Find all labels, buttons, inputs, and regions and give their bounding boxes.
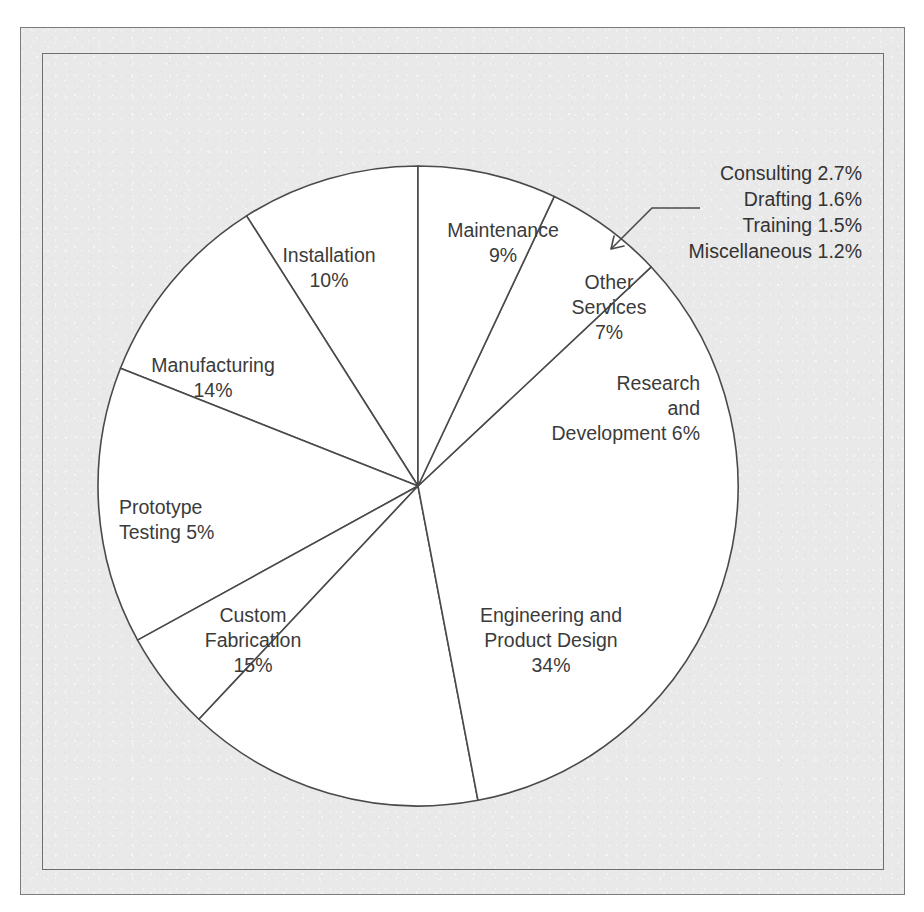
pie-chart-svg: Maintenance9%Installation10%Manufacturin… xyxy=(0,0,924,912)
pie-slice-label-line: Prototype xyxy=(119,496,202,518)
pie-slice-label-line: 34% xyxy=(531,654,570,676)
pie-slice-label-line: 10% xyxy=(309,269,348,291)
pie-slice-label-line: Testing 5% xyxy=(119,521,214,543)
pie-slice-label-line: 15% xyxy=(233,654,272,676)
pie-slice-label-line: 14% xyxy=(193,379,232,401)
pie-slice-label-line: Fabrication xyxy=(205,629,301,651)
pie-slice-label-line: Development 6% xyxy=(552,422,701,444)
callout-text-group: Consulting 2.7%Drafting 1.6%Training 1.5… xyxy=(689,162,862,262)
pie-slice-label-line: Research xyxy=(617,372,700,394)
pie-slice-label-line: Custom xyxy=(219,604,286,626)
pie-slice-label-line: Services xyxy=(572,296,647,318)
pie-slice-label-line: Other xyxy=(585,271,634,293)
pie-slice-label-line: Product Design xyxy=(484,629,617,651)
callout-breakdown-item: Consulting 2.7% xyxy=(720,162,862,184)
pie-slice-label-line: Engineering and xyxy=(480,604,622,626)
callout-breakdown-item: Training 1.5% xyxy=(742,214,862,236)
pie-slice-label-line: Maintenance xyxy=(447,219,559,241)
pie-slices-group xyxy=(98,166,738,806)
callout-breakdown-item: Drafting 1.6% xyxy=(744,188,862,210)
pie-slice-label-line: and xyxy=(667,397,700,419)
callout-breakdown-list: Consulting 2.7%Drafting 1.6%Training 1.5… xyxy=(689,162,862,262)
pie-slice-label-line: Manufacturing xyxy=(151,354,275,376)
pie-slice-label-line: 7% xyxy=(595,321,623,343)
pie-slice-label-line: 9% xyxy=(489,244,517,266)
pie-slice-label-line: Installation xyxy=(282,244,375,266)
callout-breakdown-item: Miscellaneous 1.2% xyxy=(689,240,862,262)
pie-chart-figure: Maintenance9%Installation10%Manufacturin… xyxy=(0,0,924,912)
